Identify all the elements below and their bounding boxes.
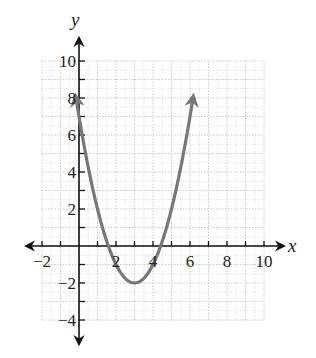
x-tick-label: 4 [149, 252, 158, 271]
x-tick-label: 10 [256, 252, 273, 271]
x-tick-label: 2 [112, 252, 121, 271]
y-tick-label: −2 [58, 274, 76, 293]
x-axis-label: x [287, 235, 297, 256]
x-tick-label: −2 [33, 252, 51, 271]
y-tick-label: 8 [68, 89, 77, 108]
y-tick-label: 2 [68, 200, 77, 219]
y-tick-label: 6 [68, 126, 77, 145]
x-tick-label: 8 [223, 252, 232, 271]
y-axis-label: y [69, 9, 80, 30]
parabola-chart: −2246810−4−2246810 x y [0, 0, 316, 358]
y-tick-label: −4 [58, 311, 77, 330]
x-tick-label: 6 [186, 252, 195, 271]
y-tick-label: 10 [59, 52, 76, 71]
y-tick-label: 4 [68, 163, 77, 182]
